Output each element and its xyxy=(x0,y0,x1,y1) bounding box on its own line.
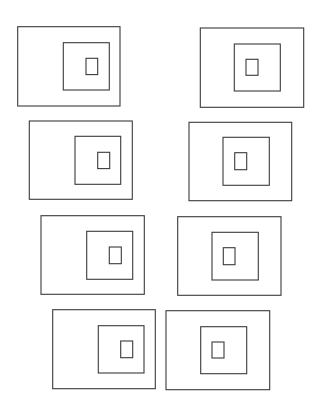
diagram-background xyxy=(0,0,322,411)
nested-rectangles-diagram xyxy=(0,0,322,411)
